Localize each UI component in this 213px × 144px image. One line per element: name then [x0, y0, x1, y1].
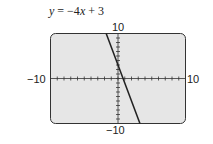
graph-screen	[0, 0, 213, 144]
